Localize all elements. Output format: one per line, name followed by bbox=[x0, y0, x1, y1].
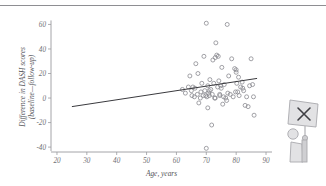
data-point bbox=[252, 113, 256, 117]
data-point bbox=[249, 57, 253, 61]
y-tick-label: 40 bbox=[39, 46, 47, 54]
data-point bbox=[217, 79, 221, 83]
y-tick-label: 60 bbox=[39, 21, 47, 29]
y-axis-title: Difference in DASH scores (baseline—foll… bbox=[18, 47, 36, 128]
person-body-icon bbox=[290, 142, 303, 162]
watermark-person-holding-sign-with-x bbox=[288, 100, 318, 162]
figure-container: -40-200204060 2030405060708090 Age, year… bbox=[0, 0, 326, 186]
data-point bbox=[208, 78, 212, 82]
data-point bbox=[219, 86, 223, 90]
y-tick-label: 20 bbox=[39, 70, 47, 78]
x-axis-ticks: 2030405060708090 bbox=[53, 152, 270, 165]
scatter-plot: -40-200204060 2030405060708090 Age, year… bbox=[0, 0, 326, 186]
x-tick-label: 50 bbox=[143, 157, 151, 165]
data-point bbox=[221, 102, 225, 106]
data-point bbox=[231, 95, 235, 99]
data-point bbox=[237, 75, 241, 79]
data-point bbox=[203, 89, 207, 93]
data-point bbox=[206, 106, 210, 110]
data-point bbox=[200, 81, 204, 85]
x-axis-group: 2030405060708090 bbox=[51, 152, 272, 165]
data-point bbox=[242, 89, 246, 93]
x-tick-label: 80 bbox=[233, 157, 241, 165]
data-point bbox=[197, 101, 201, 105]
data-point bbox=[183, 91, 187, 95]
data-point bbox=[210, 123, 214, 127]
data-point bbox=[220, 65, 224, 69]
y-axis-title-line-2: (baseline—follow-up) bbox=[27, 54, 36, 119]
x-tick-label: 20 bbox=[53, 157, 61, 165]
data-point bbox=[195, 92, 199, 96]
data-point bbox=[199, 90, 203, 94]
x-tick-label: 60 bbox=[173, 157, 181, 165]
x-tick-label: 40 bbox=[113, 157, 121, 165]
data-point bbox=[204, 146, 208, 150]
data-point bbox=[225, 22, 229, 26]
y-axis-ticks: -40-200204060 bbox=[36, 21, 51, 152]
person-head-icon bbox=[288, 129, 298, 139]
data-point bbox=[194, 62, 198, 66]
data-point bbox=[245, 95, 249, 99]
y-axis-title-line-1: Difference in DASH scores bbox=[18, 47, 27, 128]
data-point bbox=[230, 57, 234, 61]
data-point bbox=[234, 70, 238, 74]
x-axis-title: Age, years bbox=[145, 169, 177, 178]
data-point bbox=[204, 21, 208, 25]
data-point bbox=[202, 54, 206, 58]
y-tick-label: 0 bbox=[42, 95, 46, 103]
data-point bbox=[214, 41, 218, 45]
data-point bbox=[196, 72, 200, 76]
data-point bbox=[225, 98, 229, 102]
x-tick-label: 70 bbox=[203, 157, 211, 165]
data-point bbox=[251, 95, 255, 99]
data-point bbox=[227, 74, 231, 78]
person-arm-icon bbox=[302, 140, 307, 162]
y-axis-group: -40-200204060 bbox=[36, 20, 51, 151]
x-tick-label: 90 bbox=[262, 157, 270, 165]
data-point bbox=[188, 74, 192, 78]
data-point bbox=[211, 58, 215, 62]
x-tick-label: 30 bbox=[82, 157, 91, 165]
data-points-group bbox=[180, 21, 256, 150]
y-tick-label: -20 bbox=[36, 119, 46, 127]
data-point bbox=[237, 94, 241, 98]
y-tick-label: -40 bbox=[36, 144, 46, 152]
